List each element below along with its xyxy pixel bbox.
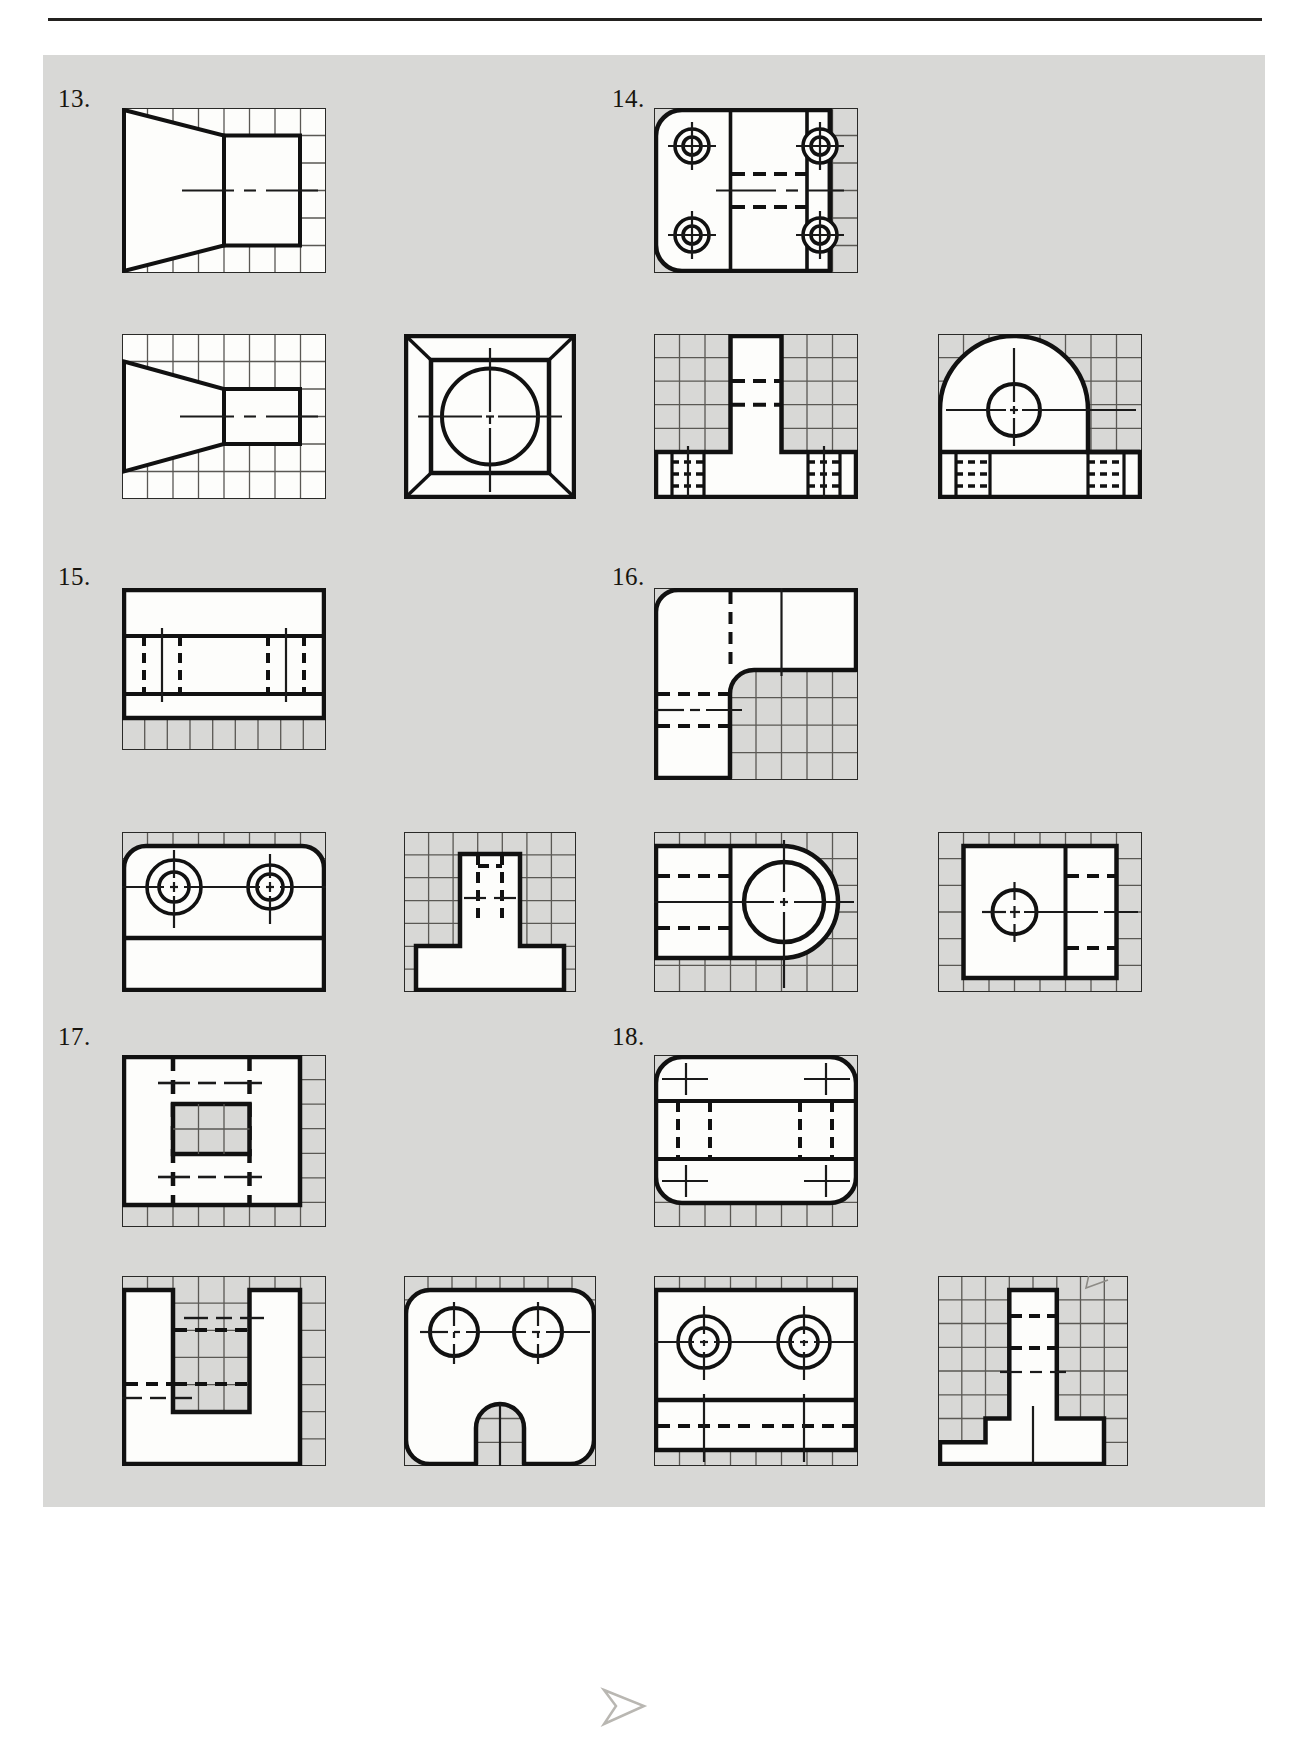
answer-view-dome-hole <box>938 334 1142 499</box>
figure-16-front-view <box>654 588 858 780</box>
answer-view-wedge-side <box>122 334 326 499</box>
problem-number-17: 17. <box>58 1023 91 1051</box>
answer-view-step-column <box>938 1276 1128 1466</box>
figure-13-front-view <box>122 108 326 273</box>
problem-number-13: 13. <box>58 85 91 113</box>
page-footer-mark <box>596 1684 686 1734</box>
answer-view-big-hole-block <box>654 832 858 992</box>
answer-view-counterbore-plate <box>654 1276 858 1466</box>
figure-17-front-view <box>122 1055 326 1227</box>
answer-view-tee-column <box>404 832 576 992</box>
answer-view-small-hole-block <box>938 832 1142 992</box>
problem-number-18: 18. <box>612 1023 645 1051</box>
figure-15-front-view <box>122 588 326 750</box>
problem-number-16: 16. <box>612 563 645 591</box>
header-rule <box>48 18 1262 21</box>
textbook-page: 13. 14. 15. 16. 17. 18. <box>0 0 1308 1738</box>
answer-view-square-circle <box>404 334 576 499</box>
answer-view-u-channel <box>122 1276 326 1466</box>
figure-18-front-view <box>654 1055 858 1227</box>
answer-view-tee-block <box>654 334 858 499</box>
answer-view-two-hole-plate <box>122 832 326 992</box>
problem-number-15: 15. <box>58 563 91 591</box>
answer-view-two-circle-arch <box>404 1276 596 1466</box>
figure-14-front-view <box>654 108 858 273</box>
problem-number-14: 14. <box>612 85 645 113</box>
